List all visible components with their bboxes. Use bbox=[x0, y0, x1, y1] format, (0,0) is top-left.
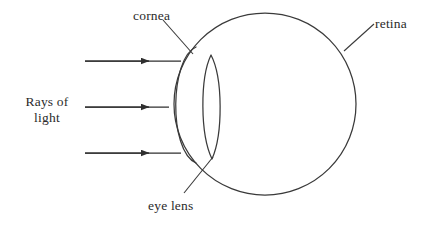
eye-lens-biconvex bbox=[203, 55, 220, 159]
cornea-leader-line bbox=[163, 20, 193, 54]
retina-leader-line bbox=[344, 24, 374, 51]
eyeball-outline bbox=[174, 13, 356, 195]
label-cornea: cornea bbox=[133, 8, 170, 24]
label-eye-lens: eye lens bbox=[148, 198, 193, 214]
label-rays-of-light: Rays of light bbox=[8, 94, 86, 126]
label-retina: retina bbox=[375, 16, 407, 32]
label-rays-line-1: Rays of bbox=[8, 94, 86, 110]
eye-diagram-canvas: cornea retina eye lens Rays of light bbox=[0, 0, 438, 228]
cornea-arc bbox=[176, 47, 196, 163]
label-rays-line-2: light bbox=[8, 110, 86, 126]
